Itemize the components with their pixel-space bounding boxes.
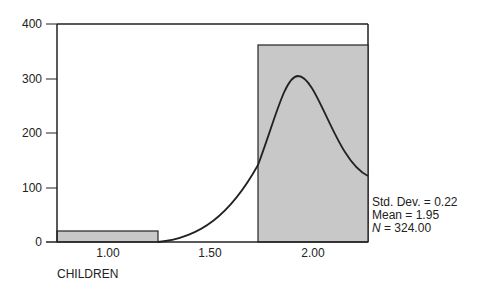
y-ticks: 400 300 200 100 0 xyxy=(22,17,57,249)
x-ticks: 1.00 1.50 2.00 xyxy=(96,246,325,260)
y-tick-label: 0 xyxy=(35,235,42,249)
x-tick-label: 1.50 xyxy=(198,246,222,260)
n-value: = 324.00 xyxy=(381,221,431,235)
n-symbol: N xyxy=(372,221,381,235)
x-tick-label: 2.00 xyxy=(301,246,325,260)
histogram-bar-1 xyxy=(57,231,158,242)
y-tick-label: 100 xyxy=(22,181,42,195)
y-tick-label: 200 xyxy=(22,126,42,140)
y-tick-label: 300 xyxy=(22,72,42,86)
y-tick-label: 400 xyxy=(22,17,42,31)
n-label: N = 324.00 xyxy=(372,222,458,235)
histogram-bar-2 xyxy=(258,45,368,242)
histogram-chart: 400 300 200 100 0 1.00 1.50 2.00 xyxy=(0,0,502,293)
x-tick-label: 1.00 xyxy=(96,246,120,260)
summary-stats: Std. Dev. = 0.22 Mean = 1.95 N = 324.00 xyxy=(372,196,458,235)
x-axis-label: CHILDREN xyxy=(57,267,118,281)
